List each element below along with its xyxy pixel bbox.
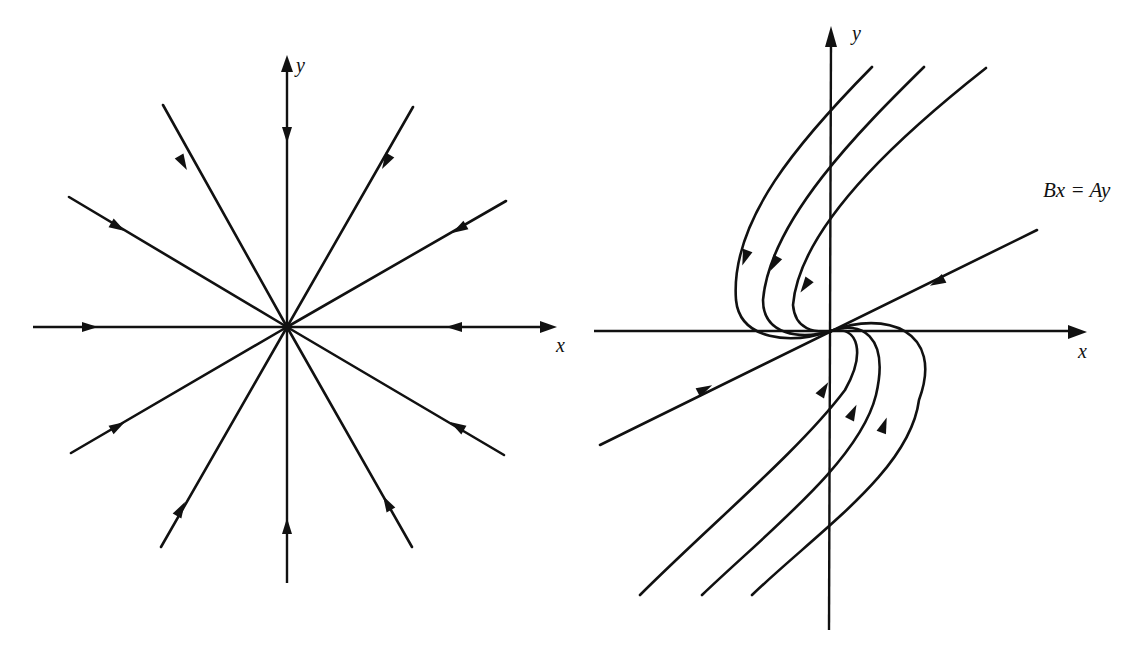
trajectory-upper-3 (793, 68, 986, 332)
right-flow-arrows (696, 249, 947, 434)
arrow-icon (379, 494, 396, 513)
left-x-axis-label: x (556, 334, 565, 357)
trajectory-lower-1 (640, 330, 857, 595)
trajectory-lower-2 (702, 328, 880, 595)
ray-wnw (69, 197, 287, 327)
right-y-axis (829, 40, 831, 630)
right-y-axis-arrowhead-icon (825, 26, 837, 47)
eigenline (600, 230, 1037, 445)
arrow-right-icon (82, 322, 98, 332)
left-phase-portrait (0, 0, 1141, 656)
ray-nne (287, 107, 413, 327)
ray-wsw (71, 327, 287, 453)
left-origin-node (283, 323, 292, 332)
left-x-axis-arrowhead-icon (540, 321, 557, 333)
arrow-icon (175, 154, 192, 173)
left-y-axis-arrowhead-icon (281, 55, 293, 72)
arrow-down-icon (282, 127, 292, 143)
arrow-icon (109, 418, 128, 435)
ray-ene (287, 201, 506, 327)
arrow-up-icon (282, 518, 292, 534)
right-y-axis-label: y (852, 22, 861, 45)
left-flow-arrows (82, 127, 468, 534)
ray-ese (287, 327, 504, 455)
ray-nnw (163, 105, 287, 327)
phase-portrait-figure: y x y x Bx = Ay (0, 0, 1141, 656)
right-x-axis-arrowhead-icon (1068, 325, 1087, 339)
eigenline-label: Bx = Ay (1043, 178, 1110, 203)
arrow-icon (845, 403, 861, 422)
arrow-left-icon (446, 322, 462, 332)
trajectory-lower-3 (752, 323, 925, 595)
right-x-axis-label: x (1078, 340, 1087, 363)
arrow-icon (877, 416, 892, 434)
left-y-axis-label: y (296, 54, 305, 77)
ray-sse (287, 327, 412, 547)
